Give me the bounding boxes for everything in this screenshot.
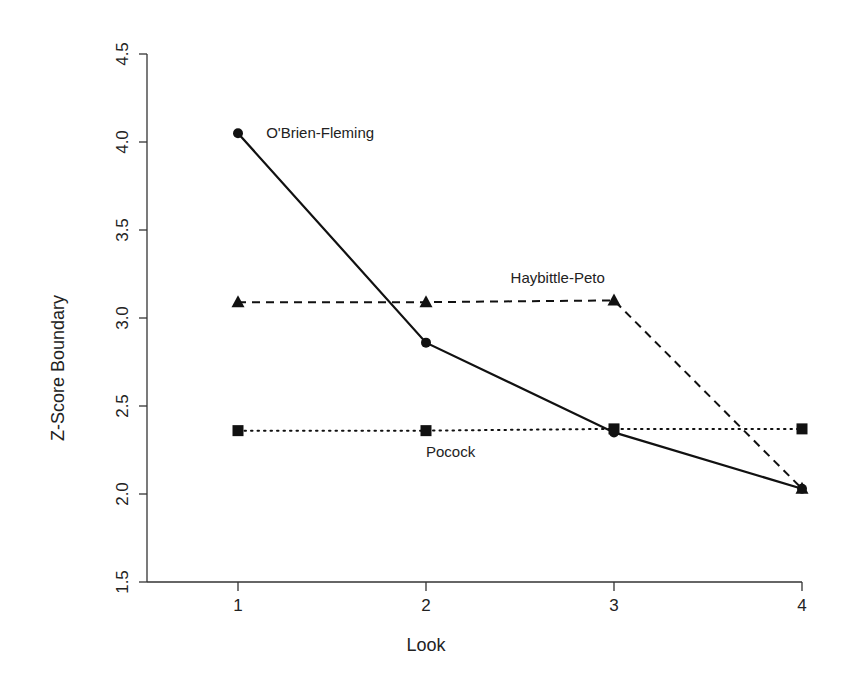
y-axis-label: Z-Score Boundary [48, 295, 68, 441]
x-tick-label: 4 [797, 596, 806, 615]
square-marker [233, 425, 244, 436]
axes: 1.52.02.53.03.54.04.51234 [113, 42, 807, 615]
x-axis-label: Look [406, 635, 446, 655]
square-marker [609, 423, 620, 434]
series-annotation: Haybittle-Peto [511, 269, 605, 286]
y-tick-label: 2.0 [113, 482, 132, 506]
z-score-boundary-chart: 1.52.02.53.03.54.04.51234 O'Brien-Flemin… [0, 0, 847, 685]
y-tick-label: 2.5 [113, 394, 132, 418]
y-tick-label: 4.5 [113, 42, 132, 66]
o-brien-fleming-line [238, 133, 802, 489]
x-tick-label: 3 [609, 596, 618, 615]
annotations: O'Brien-FlemingHaybittle-PetoPocock [266, 124, 605, 460]
x-tick-label: 1 [233, 596, 242, 615]
haybittle-peto-line [238, 300, 802, 488]
circle-marker [233, 128, 243, 138]
y-tick-label: 4.0 [113, 130, 132, 154]
y-tick-label: 3.0 [113, 306, 132, 330]
triangle-marker [608, 293, 621, 305]
square-marker [797, 423, 808, 434]
square-marker [421, 425, 432, 436]
y-tick-label: 1.5 [113, 570, 132, 594]
series-annotation: O'Brien-Fleming [266, 124, 374, 141]
x-tick-label: 2 [421, 596, 430, 615]
circle-marker [421, 338, 431, 348]
series-annotation: Pocock [426, 443, 476, 460]
series-layer [232, 128, 809, 494]
y-tick-label: 3.5 [113, 218, 132, 242]
pocock-line [238, 429, 802, 431]
